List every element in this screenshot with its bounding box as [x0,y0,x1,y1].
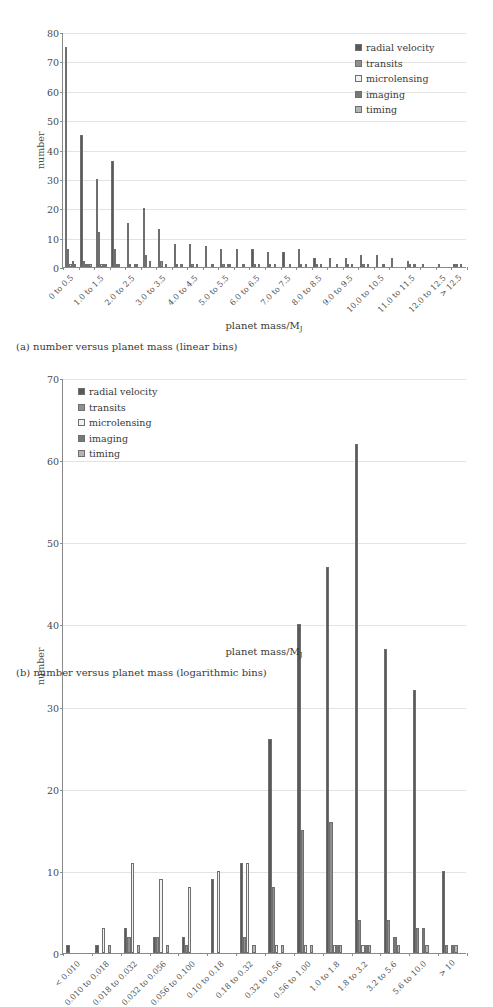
bar [191,264,193,267]
x-axis-tick-mark [141,267,142,270]
bar-group [355,378,377,953]
bar [456,264,458,267]
y-axis-tick-mark [60,790,63,791]
legend-label: radial velocity [366,42,434,53]
x-axis-tick-mark [389,267,390,270]
x-axis-title-subscript: J [300,651,303,659]
legend-swatch-icon [355,91,362,98]
legend-swatch-icon [78,388,85,395]
y-gridline [63,121,466,122]
bar [118,264,120,267]
legend-item[interactable]: transits [355,56,434,72]
bar-group [111,32,123,267]
legend-item[interactable]: microlensing [78,415,157,431]
bar [149,261,151,267]
bar [351,264,353,267]
bar [246,863,249,953]
bar [129,264,131,267]
y-axis-tick-label: 70 [47,374,59,385]
bar-group [251,32,263,267]
bar [211,264,213,267]
x-axis-category-label: 12.0 to 12.5 [407,308,413,314]
y-axis-tick-label: 80 [47,28,59,39]
x-axis-tick-mark [467,267,468,270]
y-gridline [63,33,466,34]
bar [368,945,371,953]
y-axis-tick-mark [60,121,63,122]
bar [425,945,428,953]
x-axis-tick-mark [380,953,381,956]
bar [316,264,318,267]
legend-swatch-icon [78,404,85,411]
bar [74,264,76,267]
bar [229,264,231,267]
legend-item[interactable]: transits [78,400,157,416]
bar [305,264,307,267]
y-axis-tick-mark [60,62,63,63]
legend-label: timing [89,448,120,459]
x-axis-category-label: 0.18 to 0.32 [214,994,220,1000]
bar [242,264,244,267]
legend-swatch-icon [78,419,85,426]
x-axis-category-label: 0 to 0.5 [47,295,53,301]
x-axis-category-label: 8.0 to 8.5 [290,301,296,307]
legend-item[interactable]: timing [78,446,157,462]
bar [127,223,129,267]
bar [445,945,448,953]
x-axis-tick-mark [374,267,375,270]
legend-item[interactable]: microlensing [355,71,434,87]
bar [339,945,342,953]
bar [274,264,276,267]
y-axis-tick-label: 40 [47,620,59,631]
bar-group [453,32,465,267]
bar-group [205,32,217,267]
bar [413,690,416,953]
bar [80,135,82,267]
bar [272,887,275,953]
x-axis-category-label: 2.0 to 2.5 [103,301,109,307]
bar-group [143,32,155,267]
y-axis-tick-label: 10 [47,233,59,244]
x-axis-category-label: 11.0 to 11.5 [376,308,382,314]
legend-label: imaging [366,89,405,100]
bar [145,255,147,267]
legend-item[interactable]: timing [355,102,434,118]
y-axis-tick-mark [60,379,63,380]
x-axis-tick-mark [63,267,64,270]
legend-swatch-icon [355,106,362,113]
x-axis-category-label: 0.056 to 0.100 [149,1001,155,1007]
x-axis-tick-mark [110,267,111,270]
legend-label: transits [89,402,126,413]
x-axis-tick-mark [218,267,219,270]
y-axis-tick-mark [60,33,63,34]
x-axis-tick-mark [352,953,353,956]
bar [217,871,220,953]
bar [329,822,332,953]
legend-item[interactable]: radial velocity [355,40,434,56]
bar-group [326,378,348,953]
x-axis-title: planet mass/MJ [62,320,466,331]
y-axis-tick-mark [60,151,63,152]
x-axis-tick-mark [281,267,282,270]
bar [397,945,400,953]
x-axis-title-text: planet mass/M [225,320,299,331]
bar-group [282,32,294,267]
x-axis-tick-mark [172,267,173,270]
y-axis-title: number [35,131,46,169]
bar [188,887,191,953]
y-axis-tick-label: 0 [53,949,59,960]
bar [275,945,278,953]
x-axis-tick-mark [236,953,237,956]
legend-item[interactable]: imaging [78,431,157,447]
bar-group [211,378,233,953]
bar [282,252,284,267]
chart-legend: radial velocitytransitsmicrolensingimagi… [78,384,157,462]
legend-item[interactable]: imaging [355,87,434,103]
bar [409,264,411,267]
legend-item[interactable]: radial velocity [78,384,157,400]
x-axis-tick-mark [79,267,80,270]
x-axis-tick-mark [187,267,188,270]
x-axis-tick-mark [156,267,157,270]
x-axis-tick-mark [405,267,406,270]
